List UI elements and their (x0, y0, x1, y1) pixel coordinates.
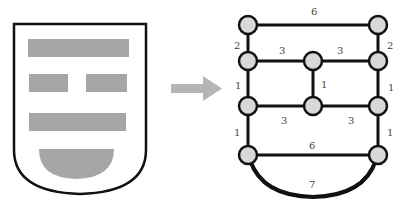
node (369, 52, 387, 70)
arrow-right-icon (171, 76, 222, 101)
label-left-low: 1 (234, 127, 240, 138)
diagram-canvas: 6 2 2 3 3 1 1 1 3 3 1 1 6 7 (0, 0, 407, 212)
label-lower-left: 3 (281, 115, 287, 126)
shield-top-bar (28, 39, 129, 57)
node (304, 52, 322, 70)
node (239, 97, 257, 115)
node (239, 52, 257, 70)
shield-lower-bar (29, 113, 126, 131)
node (239, 16, 257, 34)
node (304, 97, 322, 115)
label-mid-right: 3 (337, 45, 343, 56)
node (239, 146, 257, 164)
label-right-mid: 1 (388, 82, 394, 93)
label-right-low: 1 (387, 127, 393, 138)
label-left-mid: 1 (235, 80, 241, 91)
node (369, 97, 387, 115)
label-right-top: 2 (387, 40, 393, 51)
label-left-top: 2 (234, 40, 240, 51)
label-lower-right: 3 (348, 115, 354, 126)
label-center-vertical: 1 (321, 79, 327, 90)
label-top: 6 (311, 6, 317, 17)
label-mid-left: 3 (279, 45, 285, 56)
shield (14, 24, 146, 194)
shield-middle-right-bar (86, 74, 127, 92)
label-arc: 7 (309, 179, 315, 190)
label-bottom: 6 (309, 140, 315, 151)
node (369, 146, 387, 164)
shield-middle-left-bar (29, 74, 68, 92)
node (369, 16, 387, 34)
